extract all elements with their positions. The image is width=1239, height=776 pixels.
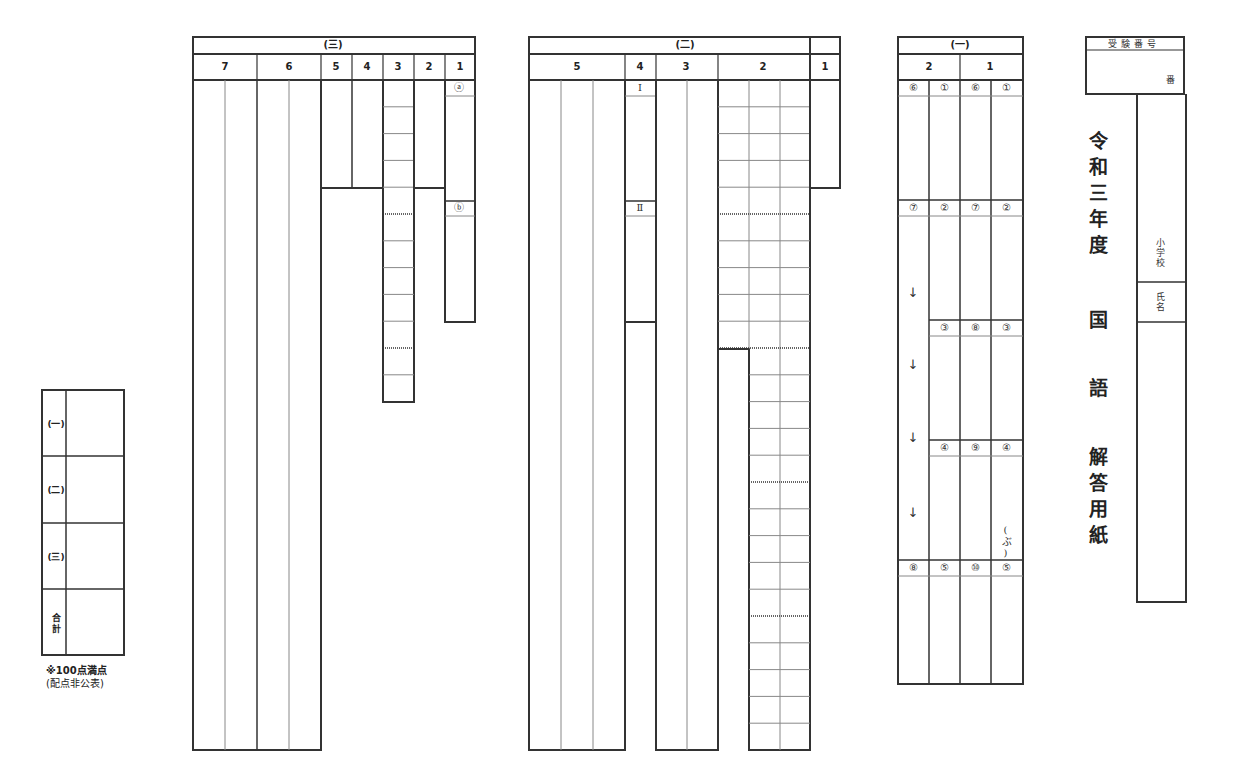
- s1-c2-label-3: ⑨: [971, 443, 980, 453]
- allocation-note: (配点非公表): [46, 677, 104, 690]
- school-field[interactable]: [1138, 96, 1186, 282]
- section-2-title: (二): [675, 40, 694, 50]
- s1-c3-label-2: ③: [1002, 323, 1011, 333]
- title-char: 紙: [1089, 520, 1108, 547]
- section-3-q7-header: 7: [222, 62, 229, 72]
- score-row-section-1: (一): [47, 420, 64, 429]
- s1-c0-label-2: ⑧: [909, 563, 918, 573]
- reading-hint: (ぶ): [1000, 524, 1010, 559]
- title-char: 用: [1089, 494, 1108, 521]
- s1-c1-label-0: ①: [940, 83, 949, 93]
- arrow-down-icon: ↓: [908, 286, 919, 299]
- exam-number-header: 受験番号: [1108, 40, 1160, 49]
- s1-c1-label-3: ④: [940, 443, 949, 453]
- score-row-section-2: (二): [47, 486, 64, 495]
- section-1-q2-header: 2: [926, 62, 933, 72]
- s1-c0-label-1: ⑦: [909, 203, 918, 213]
- section-2-header-row: [529, 54, 810, 80]
- arrow-down-icon: ↓: [908, 506, 919, 519]
- section-3-title: (三): [323, 40, 342, 50]
- title-char: 三: [1089, 178, 1108, 205]
- section-3-q2-header: 2: [426, 62, 433, 72]
- section-2-title-cell: [529, 37, 810, 54]
- section-3-q4-header: 4: [364, 62, 371, 72]
- section-3-q1-header: 1: [457, 62, 464, 72]
- answer-sheet: (三) 7 6 5 4 3 2 1 ⓐ ⓑ (二) 5 4 3 2 1 Ⅰ Ⅱ …: [0, 0, 1239, 776]
- section-2-q2-outline: [718, 80, 810, 750]
- s1-c3-label-3: ④: [1002, 443, 1011, 453]
- title-char: 度: [1089, 230, 1108, 257]
- s1-c2-label-4: ⑩: [971, 563, 980, 573]
- section-2-q1-header: 1: [822, 62, 829, 72]
- full-score-note: ※100点満点: [46, 664, 107, 677]
- section-3-q6-header: 6: [286, 62, 293, 72]
- section-2-q2-header: 2: [760, 62, 767, 72]
- s1-c2-label-2: ⑧: [971, 323, 980, 333]
- section-2-q4-label-1: Ⅰ: [638, 83, 642, 93]
- s1-c3-label-4: ⑤: [1002, 563, 1011, 573]
- s1-c3-label-1: ②: [1002, 203, 1011, 213]
- title-char: 和: [1089, 152, 1108, 179]
- score-row-section-3: (三): [47, 553, 64, 562]
- arrow-down-icon: ↓: [908, 358, 919, 371]
- title-char: 語: [1089, 373, 1108, 400]
- s1-c2-label-1: ⑦: [971, 203, 980, 213]
- section-2-q3-header: 3: [683, 62, 690, 72]
- s1-c2-label-0: ⑥: [971, 83, 980, 93]
- section-2-q5-answer-box[interactable]: [529, 80, 625, 750]
- section-2-q1-answer-box[interactable]: [810, 37, 840, 188]
- section-3-q5-header: 5: [333, 62, 340, 72]
- title-char: 年: [1089, 204, 1108, 231]
- section-1-q1-header: 1: [987, 62, 994, 72]
- title-char: 国: [1089, 305, 1108, 332]
- section-3-q3-header: 3: [395, 62, 402, 72]
- s1-c3-label-0: ①: [1002, 83, 1011, 93]
- s1-c0-label-0: ⑥: [909, 83, 918, 93]
- name-field[interactable]: [1138, 322, 1186, 600]
- title-char: 令: [1089, 126, 1108, 153]
- title-char: 答: [1089, 468, 1108, 495]
- score-row-total: 合計: [51, 613, 61, 635]
- section-3-q2-answer-box[interactable]: [414, 80, 445, 188]
- exam-number-field[interactable]: [1086, 50, 1184, 94]
- s1-c1-label-1: ②: [940, 203, 949, 213]
- s1-c1-label-2: ③: [940, 323, 949, 333]
- section-2-q4-label-2: Ⅱ: [637, 203, 644, 213]
- answer-grid: [0, 0, 1239, 776]
- section-1-title: (一): [950, 40, 969, 50]
- section-2-q4-header: 4: [637, 62, 644, 72]
- arrow-down-icon: ↓: [908, 431, 919, 444]
- section-2-q5-header: 5: [574, 62, 581, 72]
- section-3-q1-label-a: ⓐ: [454, 83, 464, 93]
- section-3-q1-label-b: ⓑ: [454, 203, 464, 213]
- s1-c1-label-4: ⑤: [940, 563, 949, 573]
- name-label: 氏名: [1155, 292, 1164, 312]
- title-char: 解: [1089, 442, 1108, 469]
